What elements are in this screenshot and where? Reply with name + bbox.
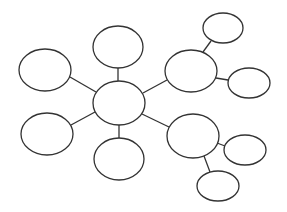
edge-center-to-right-upper: [143, 80, 167, 93]
node-top: [93, 26, 143, 68]
edge-right-upper-to-right-upper-top: [203, 41, 211, 52]
node-center: [93, 81, 145, 125]
edge-center-to-right-lower: [142, 114, 169, 127]
node-ellipse: [224, 135, 266, 165]
node-right-upper: [165, 50, 217, 92]
edge-right-upper-to-right-upper-side: [216, 78, 228, 80]
node-ellipse: [21, 113, 73, 155]
mind-map-diagram: [0, 0, 287, 212]
edge-center-to-left-lower: [71, 112, 95, 125]
edge-center-to-left-upper: [70, 77, 96, 92]
node-right-lower-bottom: [197, 171, 239, 201]
node-ellipse: [93, 26, 143, 68]
node-right-upper-side: [228, 68, 270, 98]
edge-right-lower-to-right-lower-bottom: [204, 156, 210, 172]
node-ellipse: [203, 13, 243, 43]
node-left-lower: [21, 113, 73, 155]
node-ellipse: [93, 81, 145, 125]
node-right-lower-side: [224, 135, 266, 165]
node-ellipse: [94, 138, 144, 180]
node-ellipse: [197, 171, 239, 201]
nodes-layer: [19, 13, 270, 201]
node-left-upper: [19, 49, 71, 91]
node-ellipse: [19, 49, 71, 91]
node-ellipse: [165, 50, 217, 92]
node-bottom: [94, 138, 144, 180]
node-right-lower: [167, 114, 219, 158]
node-right-upper-top: [203, 13, 243, 43]
node-ellipse: [167, 114, 219, 158]
diagram-canvas: [0, 0, 287, 212]
node-ellipse: [228, 68, 270, 98]
